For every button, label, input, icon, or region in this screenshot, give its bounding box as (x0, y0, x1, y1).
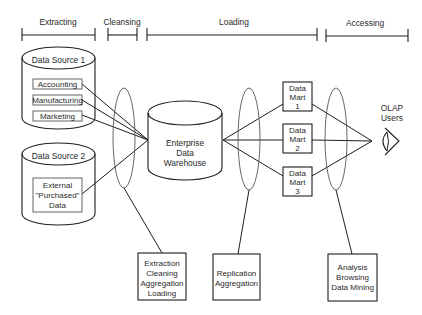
phase-label-cleansing: Cleansing (103, 17, 141, 27)
eye-icon (383, 128, 399, 155)
data-warehouse-diagram: Extracting Cleansing Loading Accessing (0, 0, 422, 315)
phase-extracting: Extracting (22, 17, 95, 41)
process-box-1-line-2: Cleaning (146, 269, 178, 278)
phase-label-loading: Loading (219, 17, 249, 27)
external-line-3: Data (49, 201, 66, 210)
data-mart-2-line-3: 2 (295, 144, 300, 153)
data-mart-2: Data Mart 2 (283, 124, 312, 153)
warehouse-line-2: Data (176, 148, 194, 158)
data-mart-2-line-2: Mart (290, 135, 307, 144)
process-box-3-line-1: Analysis (338, 263, 368, 272)
data-mart-3-line-1: Data (289, 169, 306, 178)
process-box-1-line-1: Extraction (144, 259, 180, 268)
cleansing-oval (113, 88, 135, 188)
warehouse-line-1: Enterprise (166, 138, 205, 148)
warehouse-line-3: Warehouse (164, 158, 207, 168)
external-line-1: External (43, 181, 73, 190)
olap-users-line-2: Users (381, 113, 403, 123)
process-box-3-line-2: Browsing (336, 273, 369, 282)
process-box-2-line-1: Replication (217, 269, 257, 278)
phase-accessing: Accessing (326, 18, 408, 42)
olap-users-line-1: OLAP (381, 103, 404, 113)
process-box-extraction: Extraction Cleaning Aggregation Loading (138, 253, 186, 300)
phase-label-extracting: Extracting (39, 17, 77, 27)
external-line-2: "Purchased" (36, 191, 80, 200)
data-mart-1: Data Mart 1 (283, 82, 312, 111)
enterprise-data-warehouse-cylinder: Enterprise Data Warehouse (148, 101, 222, 180)
process-box-1-line-4: Loading (148, 289, 176, 298)
source-label-accounting: Accounting (38, 80, 78, 89)
phase-label-accessing: Accessing (346, 18, 385, 28)
process-box-1-line-3: Aggregation (140, 279, 183, 288)
source-label-manufacturing: Manufacturing (32, 96, 83, 105)
access-oval (325, 88, 347, 190)
data-mart-3: Data Mart 3 (283, 167, 312, 196)
data-mart-1-line-1: Data (289, 84, 306, 93)
data-mart-2-line-1: Data (289, 126, 306, 135)
data-mart-1-line-3: 1 (295, 102, 300, 111)
olap-users: OLAP Users (381, 103, 404, 155)
phase-cleansing: Cleansing (103, 17, 141, 41)
process-box-replication: Replication Aggregation (213, 254, 260, 300)
data-source-1-title: Data Source 1 (32, 55, 86, 65)
replication-oval (238, 88, 260, 190)
data-mart-1-line-2: Mart (290, 93, 307, 102)
process-box-2-line-2: Aggregation (215, 279, 258, 288)
process-box-3-line-3: Data Mining (331, 283, 374, 292)
process-box-analysis: Analysis Browsing Data Mining (328, 254, 377, 301)
data-source-2-title: Data Source 2 (32, 151, 86, 161)
data-source-1-cylinder: Data Source 1 Accounting Manufacturing M… (22, 47, 95, 129)
data-mart-3-line-2: Mart (290, 178, 307, 187)
source-label-marketing: Marketing (40, 112, 75, 121)
data-mart-3-line-3: 3 (295, 187, 300, 196)
connectors (82, 84, 372, 254)
phase-loading: Loading (147, 17, 317, 41)
data-source-2-cylinder: Data Source 2 External "Purchased" Data (22, 143, 95, 225)
